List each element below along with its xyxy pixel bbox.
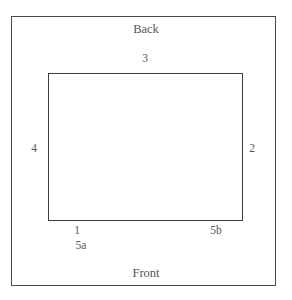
clipped-header-text: [0, 0, 292, 9]
label-edge-bottom-5b: 5b: [210, 224, 222, 236]
label-back: Back: [133, 23, 159, 36]
label-edge-right-2: 2: [249, 142, 255, 154]
label-edge-left-4: 4: [31, 142, 37, 154]
label-edge-top-3: 3: [142, 52, 148, 64]
label-front: Front: [132, 267, 159, 280]
label-edge-bottom-5a: 5a: [76, 239, 87, 251]
diagram-canvas: Back 3 4 2 1 5b 5a Front: [0, 0, 292, 300]
inner-boundary-rectangle: [48, 73, 243, 221]
label-edge-bottom-1: 1: [74, 224, 80, 236]
